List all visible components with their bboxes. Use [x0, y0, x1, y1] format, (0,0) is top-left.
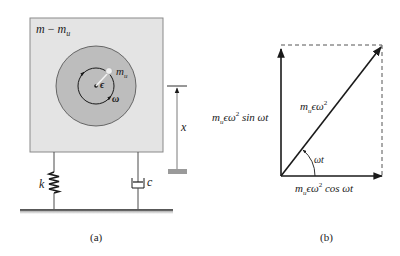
panel-a: m − mu mu ϵ ω k c	[20, 18, 187, 244]
damper-label: c	[147, 175, 153, 189]
displacement-label: x	[180, 120, 187, 134]
horizontal-component-label: muϵω2 cos ωt	[295, 181, 354, 197]
unbalanced-mass	[106, 68, 113, 75]
resultant-arrow	[281, 47, 381, 176]
resultant-label: muϵω2	[300, 99, 328, 115]
panel-b: ωt muϵω2 muϵω2 sin ωt muϵω2 cos ωt (b)	[212, 45, 382, 244]
eccentricity-label: ϵ	[100, 79, 105, 90]
angle-label: ωt	[314, 154, 324, 165]
figure: m − mu mu ϵ ω k c	[0, 0, 400, 256]
spring	[49, 152, 59, 211]
spring-label: k	[39, 177, 45, 191]
caption-a: (a)	[90, 231, 103, 244]
mass-label: m − mu	[36, 22, 70, 38]
caption-b: (b)	[320, 231, 333, 244]
angular-velocity-label: ω	[112, 93, 119, 104]
damper	[132, 152, 144, 211]
vertical-component-label: muϵω2 sin ωt	[212, 110, 269, 126]
